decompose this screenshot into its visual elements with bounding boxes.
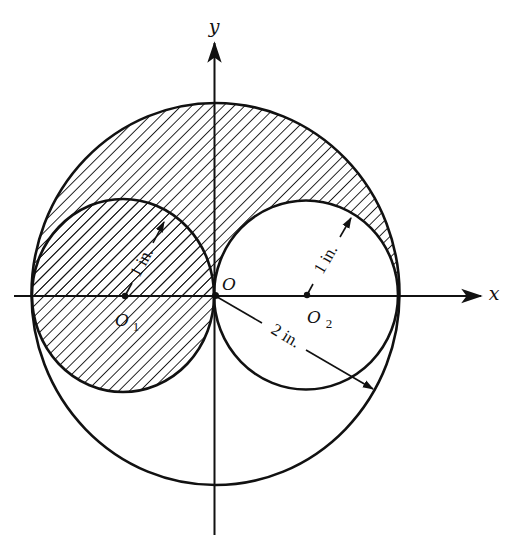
svg-text:O: O [307,307,321,327]
svg-text:O: O [115,310,129,330]
svg-text:1: 1 [133,319,140,334]
svg-text:2: 2 [326,316,333,331]
circles-diagram: 1 in. 1 in. 2 in. y x O O 1 O 2 [0,0,513,539]
origin-label: O [222,274,236,294]
shaded-region [0,0,513,539]
y-axis-label: y [208,15,220,37]
x-axis-label: x [489,282,500,304]
